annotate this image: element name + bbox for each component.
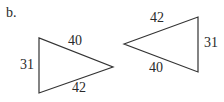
triangle-left-bottom-side-label: 42	[72, 81, 86, 95]
triangle-right-top-side-label: 42	[150, 11, 164, 25]
triangle-left-left-side-label: 31	[20, 58, 34, 72]
triangle-right-right-side-label: 31	[204, 36, 218, 50]
triangle-left-top-side-label: 40	[68, 34, 82, 48]
triangles-diagram	[0, 0, 224, 102]
part-label: b.	[6, 6, 17, 20]
triangle-right-bottom-side-label: 40	[149, 61, 163, 75]
